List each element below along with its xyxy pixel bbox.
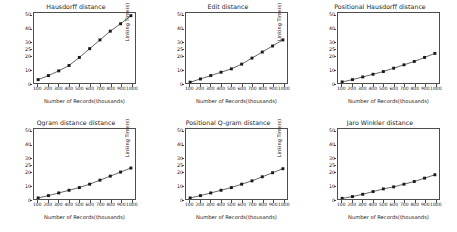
y-tick-label: 20 (5, 54, 31, 59)
data-point-marker (47, 194, 50, 197)
data-point-marker (423, 177, 426, 180)
y-tick-label: 30 (157, 40, 183, 45)
y-tick-label: 30 (309, 156, 335, 161)
data-point-marker (372, 73, 375, 76)
y-tick-label: 50 (5, 128, 31, 133)
y-tick-label: 20 (309, 54, 335, 59)
x-tick-labels: 1002003004005006007008009001000 (33, 86, 136, 94)
x-tick-labels: 1002003004005006007008009001000 (33, 202, 136, 210)
data-point-marker (98, 38, 101, 41)
y-tick-label: 50 (5, 12, 31, 17)
series-plot (186, 129, 287, 199)
data-point-marker (392, 185, 395, 188)
plot-area (337, 128, 440, 200)
data-point-marker (413, 180, 416, 183)
data-point-marker (88, 47, 91, 50)
y-tick-label: 40 (157, 142, 183, 147)
y-tick-label: 30 (157, 156, 183, 161)
x-tick-labels: 1002003004005006007008009001000 (337, 202, 440, 210)
data-point-marker (433, 173, 436, 176)
x-axis-label: Number of Records(thousands) (185, 98, 288, 105)
y-tick-label: 20 (157, 54, 183, 59)
subplot-3: Positional Hausdorff distanceLinking Tim… (304, 0, 456, 116)
series-line (38, 16, 131, 80)
plot-area (33, 12, 136, 84)
x-axis-label: Number of Records(thousands) (337, 214, 440, 221)
data-point-marker (209, 191, 212, 194)
data-point-marker (341, 197, 344, 199)
y-axis-label: Linking Time(s) (274, 102, 284, 174)
series-plot (34, 129, 135, 199)
series-line (190, 40, 283, 82)
y-tick-label: 10 (5, 68, 31, 73)
data-point-marker (361, 193, 364, 196)
y-tick-label: 20 (157, 170, 183, 175)
y-tick-label: 10 (157, 68, 183, 73)
data-point-marker (402, 183, 405, 186)
y-tick-labels: 0102025304050 (304, 128, 335, 200)
data-point-marker (220, 189, 223, 192)
x-tick-label: 1000 (274, 202, 294, 208)
y-tick-label: 40 (309, 26, 335, 31)
data-point-marker (372, 190, 375, 193)
data-point-marker (68, 64, 71, 67)
x-axis-label: Number of Records(thousands) (33, 98, 136, 105)
y-axis-label: Linking Time(s) (122, 102, 132, 174)
x-tick-labels: 1002003004005006007008009001000 (337, 86, 440, 94)
data-point-marker (109, 30, 112, 33)
y-tick-label: 20 (5, 170, 31, 175)
x-tick-label: 1000 (426, 202, 446, 208)
data-point-marker (98, 179, 101, 182)
y-tick-label: 30 (5, 40, 31, 45)
series-plot (186, 13, 287, 83)
data-point-marker (250, 57, 253, 60)
y-tick-label: 10 (157, 184, 183, 189)
plot-area (185, 128, 288, 200)
y-axis-label: Linking Time(s) (122, 0, 132, 58)
x-axis-label: Number of Records(thousands) (337, 98, 440, 105)
data-point-marker (402, 63, 405, 66)
y-tick-label: 25 (309, 163, 335, 168)
data-point-marker (220, 71, 223, 74)
data-point-marker (351, 78, 354, 81)
data-point-marker (382, 187, 385, 190)
data-point-marker (57, 191, 60, 194)
data-point-marker (37, 196, 40, 199)
y-axis-label: Linking Time(s) (274, 0, 284, 58)
plot-area (337, 12, 440, 84)
y-tick-label: 50 (309, 128, 335, 133)
series-plot (338, 129, 439, 199)
y-tick-labels: 0102025304050 (152, 12, 183, 84)
plot-area (33, 128, 136, 200)
y-tick-label: 25 (5, 47, 31, 52)
y-tick-labels: 0102025304050 (0, 128, 31, 200)
data-point-marker (261, 51, 264, 54)
y-tick-label: 10 (309, 68, 335, 73)
data-point-marker (382, 70, 385, 73)
y-tick-label: 50 (157, 12, 183, 17)
y-tick-label: 25 (309, 47, 335, 52)
chart-title: Positional Hausdorff distance (304, 3, 456, 11)
y-tick-label: 30 (5, 156, 31, 161)
data-point-marker (78, 56, 81, 59)
series-plot (338, 13, 439, 83)
data-point-marker (351, 195, 354, 198)
data-point-marker (392, 67, 395, 70)
data-point-marker (47, 74, 50, 77)
series-line (190, 169, 283, 198)
y-tick-label: 20 (309, 170, 335, 175)
y-tick-labels: 0102025304050 (0, 12, 31, 84)
x-axis-label: Number of Records(thousands) (185, 214, 288, 221)
y-tick-label: 40 (157, 26, 183, 31)
x-tick-label: 1000 (122, 202, 142, 208)
y-tick-label: 50 (309, 12, 335, 17)
y-tick-label: 50 (157, 128, 183, 133)
data-point-marker (433, 52, 436, 55)
data-point-marker (261, 175, 264, 178)
data-point-marker (240, 63, 243, 66)
data-point-marker (88, 183, 91, 186)
data-point-marker (78, 186, 81, 189)
series-plot (34, 13, 135, 83)
series-line (38, 168, 131, 198)
data-point-marker (341, 80, 344, 83)
